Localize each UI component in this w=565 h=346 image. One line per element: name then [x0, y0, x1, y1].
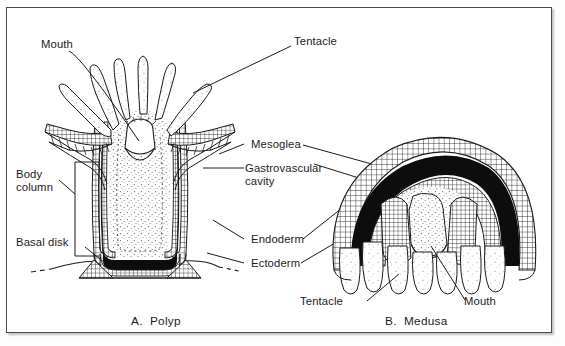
label-mesoglea: Mesoglea [251, 138, 301, 151]
leader-tentacle-polyp [193, 46, 291, 93]
caption-medusa: B. Medusa [385, 314, 448, 328]
polyp-mouth-cone [125, 119, 155, 154]
label-tentacle-polyp: Tentacle [294, 35, 337, 48]
caption-polyp: A. Polyp [131, 314, 181, 328]
label-basal-disk: Basal disk [16, 236, 69, 249]
label-body-column-line1: Body [16, 168, 42, 181]
medusa-manubrium [409, 193, 447, 256]
label-body-column-line2: column [16, 181, 53, 194]
label-mouth-polyp: Mouth [41, 38, 73, 51]
label-gastrovascular-line2: cavity [245, 175, 274, 188]
label-endoderm: Endoderm [251, 233, 304, 246]
figure-page: Mouth Tentacle Body column Basal disk Me… [0, 0, 565, 346]
label-gastrovascular-line1: Gastrovascular [245, 162, 322, 175]
figure-frame: Mouth Tentacle Body column Basal disk Me… [6, 7, 552, 333]
label-tentacle-medusa: Tentacle [300, 295, 343, 308]
leader-body-column [59, 180, 75, 194]
label-ectoderm: Ectoderm [251, 257, 300, 270]
label-mouth-medusa: Mouth [464, 295, 496, 308]
